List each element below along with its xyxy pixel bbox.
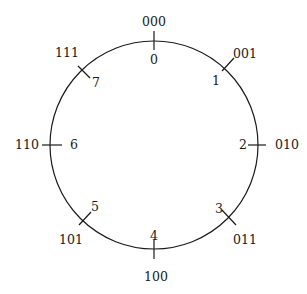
index-labels: 0 1 2 3 4 5 6 7 — [70, 52, 247, 243]
index-label-3: 3 — [215, 201, 223, 216]
index-label-6: 6 — [70, 137, 78, 152]
index-label-0: 0 — [150, 52, 158, 67]
binary-label-4: 100 — [144, 269, 168, 284]
binary-label-7: 111 — [55, 45, 79, 60]
index-label-7: 7 — [92, 75, 100, 90]
binary-label-2: 010 — [275, 137, 299, 152]
binary-label-6: 110 — [15, 137, 39, 152]
ring-diagram: 0 1 2 3 4 5 6 7 000 001 010 011 100 101 … — [0, 0, 307, 294]
binary-label-3: 011 — [233, 232, 257, 247]
ring-circle — [50, 41, 258, 249]
binary-label-5: 101 — [59, 232, 83, 247]
index-label-1: 1 — [212, 73, 220, 88]
index-label-4: 4 — [150, 228, 158, 243]
index-label-2: 2 — [239, 137, 247, 152]
binary-label-1: 001 — [233, 46, 257, 61]
binary-label-0: 000 — [142, 14, 166, 29]
index-label-5: 5 — [91, 199, 99, 214]
